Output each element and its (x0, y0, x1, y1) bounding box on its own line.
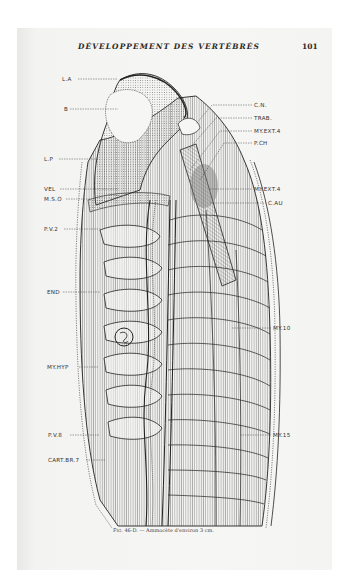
label-mso: M.S.O (44, 196, 62, 203)
label-end: END (47, 289, 60, 296)
label-la: L.A (62, 76, 72, 83)
label-myext4-a: MY.EXT.4 (254, 128, 281, 135)
label-myext4-b: MY.EXT.4 (254, 186, 281, 193)
label-cartbr7: CART.BR.7 (48, 457, 79, 464)
figure-caption: Fig. 46-D. — Ammocète d'environ 3 cm. (113, 527, 214, 533)
caption-text: — Ammocète d'environ 3 cm. (140, 527, 214, 533)
label-pv2: P.V.2 (44, 226, 58, 233)
label-pch: P.CH (254, 140, 268, 147)
caption-number: Fig. 46-D. (113, 527, 138, 533)
label-vel: VEL (44, 186, 55, 193)
label-my15: MY.15 (273, 432, 291, 439)
label-myhyp: MY.HYP (47, 364, 69, 371)
label-cn: C.N. (254, 102, 267, 109)
label-pv8: P.V.8 (48, 432, 62, 439)
label-trab: TRAB. (254, 115, 272, 122)
label-b: B (64, 106, 68, 113)
label-my10: MY.10 (273, 325, 291, 332)
label-lp: L.P (44, 156, 53, 163)
label-cau: C.AU (268, 200, 283, 207)
